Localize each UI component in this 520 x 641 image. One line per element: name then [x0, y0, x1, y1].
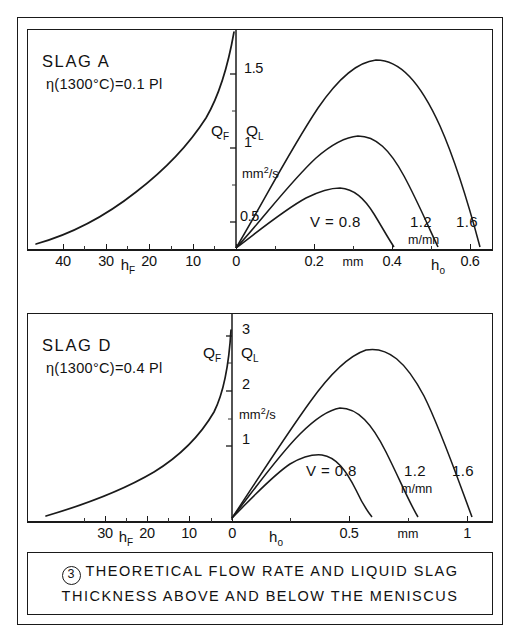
tick-b-zero — [232, 516, 233, 522]
tick-b-hf-15 — [168, 518, 169, 522]
tick-a-hf-5 — [214, 246, 215, 250]
tick-a-hf-40 — [63, 244, 64, 250]
ticklabel-a-ho-02: 0.2 — [305, 253, 324, 269]
tick-b-ho-1 — [467, 516, 468, 522]
ticklabel-a-hf-40: 40 — [55, 253, 70, 269]
figure-caption-box: 3THEORETICAL FLOW RATE AND LIQUID SLAG T… — [27, 552, 493, 615]
ticklabel-b-hf-30: 30 — [97, 525, 112, 541]
tick-b-ho-05 — [349, 516, 350, 522]
ticklabel-a-ho-04: 0.4 — [383, 253, 402, 269]
caption-number: 3 — [62, 566, 81, 585]
xaxis-label-b-hf: hF — [119, 528, 133, 548]
ticklabel-a-hf-0: 0 — [232, 253, 240, 269]
tick-a-ho-01 — [275, 246, 276, 250]
ticklabel-a-hf-30: 30 — [98, 253, 113, 269]
xunit-a: mm — [343, 255, 364, 269]
ticklabel-b-ho-05: 0.5 — [340, 525, 359, 541]
tick-a-ho-02 — [314, 244, 315, 250]
caption-line-1: 3THEORETICAL FLOW RATE AND LIQUID SLAG — [28, 563, 492, 585]
tick-a-hf-25 — [127, 246, 128, 250]
axis-row-b: 30 20 10 0 hF ho 0.5 mm 1 — [27, 522, 493, 552]
axis-line-a — [27, 250, 493, 251]
tick-b-hf-5 — [211, 518, 212, 522]
tick-a-hf-20 — [149, 244, 150, 250]
panel-b-plot — [28, 314, 491, 520]
tick-b-hf-35 — [84, 518, 85, 522]
tick-a-ho-03 — [353, 246, 354, 250]
tick-b-hf-20 — [147, 516, 148, 522]
tick-b-ho-075 — [408, 518, 409, 522]
tick-a-ho-05 — [431, 246, 432, 250]
tick-a-zero — [236, 244, 237, 250]
ticklabel-a-hf-10: 10 — [185, 253, 200, 269]
panel-a-plot — [28, 30, 491, 248]
xaxis-label-a-ho: ho — [431, 256, 445, 276]
ticklabel-b-hf-0: 0 — [228, 525, 236, 541]
tick-b-hf-30 — [105, 516, 106, 522]
ticklabel-b-ho-1: 1 — [463, 525, 471, 541]
tick-a-ho-06 — [470, 244, 471, 250]
tick-a-hf-15 — [171, 246, 172, 250]
panel-slag-a: SLAG A η(1300°C)=0.1 Pl QF QL mm2/s 1.5 … — [27, 29, 493, 250]
axis-row-a: 40 30 20 10 0 hF 0.2 mm 0.4 0.6 ho — [27, 250, 493, 280]
xaxis-label-b-ho: ho — [269, 528, 283, 548]
axis-line-b — [27, 522, 493, 523]
tick-a-hf-10 — [193, 244, 194, 250]
xaxis-label-a-hf: hF — [121, 256, 135, 276]
ticklabel-b-hf-10: 10 — [181, 525, 196, 541]
ticklabel-b-hf-20: 20 — [139, 525, 154, 541]
tick-a-ho-04 — [392, 244, 393, 250]
tick-b-ho-025 — [290, 518, 291, 522]
tick-a-hf-30 — [106, 244, 107, 250]
caption-text-1: THEORETICAL FLOW RATE AND LIQUID SLAG — [86, 563, 459, 579]
caption-line-2: THICKNESS ABOVE AND BELOW THE MENISCUS — [28, 588, 492, 604]
xunit-b: mm — [398, 527, 419, 541]
ticklabel-a-hf-20: 20 — [141, 253, 156, 269]
ticklabel-a-ho-06: 0.6 — [461, 253, 480, 269]
tick-b-hf-10 — [189, 516, 190, 522]
tick-a-hf-35 — [84, 246, 85, 250]
figure-page: SLAG A η(1300°C)=0.1 Pl QF QL mm2/s 1.5 … — [0, 0, 520, 641]
panel-slag-d: SLAG D η(1300°C)=0.4 Pl QF QL mm2/s 3 2 … — [27, 313, 493, 522]
tick-b-hf-25 — [126, 518, 127, 522]
